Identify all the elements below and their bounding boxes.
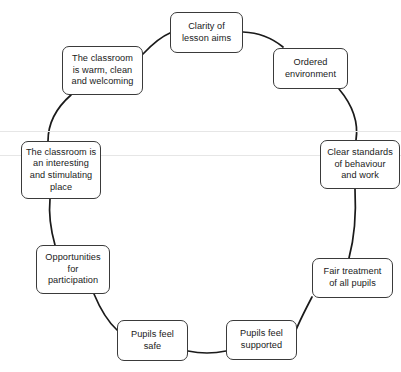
arc-warm-to-clarity <box>143 33 170 54</box>
node-label: Opportunities for participation <box>42 252 103 287</box>
node-fair-treatment-of-all-pupils[interactable]: Fair treatment of all pupils <box>312 258 393 298</box>
arc-fair-to-supported <box>296 297 312 330</box>
node-label: Pupils feel safe <box>128 329 177 352</box>
node-label: Fair treatment of all pupils <box>321 266 385 289</box>
arc-supported-to-safe <box>188 351 226 353</box>
arc-opportunities-to-interesting <box>50 199 55 245</box>
node-opportunities-for-participation[interactable]: Opportunities for participation <box>36 245 110 294</box>
arc-clarity-to-ordered <box>243 32 283 47</box>
node-label: Ordered environment <box>282 57 339 80</box>
node-label: The classroom is warm, clean and welcomi… <box>69 53 137 88</box>
node-pupils-feel-safe[interactable]: Pupils feel safe <box>117 320 188 361</box>
arc-interesting-to-warm <box>48 95 71 141</box>
node-ordered-environment[interactable]: Ordered environment <box>273 48 348 89</box>
arc-safe-to-opportunities <box>94 294 117 330</box>
page-rule-upper <box>0 131 401 132</box>
node-clear-standards-of-behaviour-and-work[interactable]: Clear standards of behaviour and work <box>320 140 400 189</box>
node-label: Clarity of lesson aims <box>179 21 234 44</box>
arc-standards-to-fair <box>349 189 355 258</box>
cycle-diagram: Clarity of lesson aims Ordered environme… <box>0 0 401 372</box>
node-pupils-feel-supported[interactable]: Pupils feel supported <box>226 320 297 360</box>
node-clarity-of-lesson-aims[interactable]: Clarity of lesson aims <box>170 12 243 53</box>
node-label: Clear standards of behaviour and work <box>324 147 396 182</box>
node-label: The classroom is an interesting and stim… <box>23 147 99 193</box>
node-the-classroom-is-an-interesting-and-stimulating-place[interactable]: The classroom is an interesting and stim… <box>21 141 101 199</box>
node-label: Pupils feel supported <box>237 328 286 351</box>
node-the-classroom-is-warm-clean-and-welcoming[interactable]: The classroom is warm, clean and welcomi… <box>62 46 143 95</box>
arc-ordered-to-standards <box>339 89 357 140</box>
